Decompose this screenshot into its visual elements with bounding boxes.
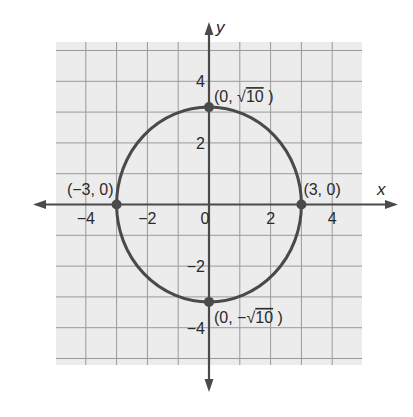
x-tick-label: 4 bbox=[328, 210, 337, 227]
radicand: 10 bbox=[255, 309, 273, 326]
x-axis-label: x bbox=[376, 180, 386, 199]
y-tick-label: −2 bbox=[187, 258, 205, 275]
y-tick-label: 2 bbox=[196, 135, 205, 152]
x-tick-label: −4 bbox=[77, 210, 95, 227]
y-tick-label: −4 bbox=[187, 320, 205, 337]
y-axis-down-arrow-icon bbox=[205, 379, 214, 392]
point-label: (0, −√10 ) bbox=[214, 309, 283, 326]
point-label: (3, 0) bbox=[303, 181, 340, 198]
radicand: 10 bbox=[246, 88, 264, 105]
point-label: (−3, 0) bbox=[67, 181, 114, 198]
coordinate-plane: (0, √10 )(0, −√10 )(−3, 0)(3, 0) −4−2024… bbox=[0, 0, 413, 417]
x-tick-label: −2 bbox=[138, 210, 156, 227]
y-axis-label: y bbox=[215, 18, 226, 37]
x-axis-left-arrow-icon bbox=[33, 200, 46, 209]
x-axis-right-arrow-icon bbox=[385, 200, 398, 209]
point-marker bbox=[204, 297, 214, 307]
y-axis-up-arrow-icon bbox=[205, 22, 214, 35]
point-marker bbox=[112, 200, 122, 210]
point-label: (0, √10 ) bbox=[214, 88, 273, 105]
point-marker bbox=[204, 102, 214, 112]
point-marker bbox=[296, 200, 306, 210]
y-tick-label: 4 bbox=[196, 73, 205, 90]
x-tick-label: 2 bbox=[266, 210, 275, 227]
x-tick-label: 0 bbox=[201, 210, 210, 227]
